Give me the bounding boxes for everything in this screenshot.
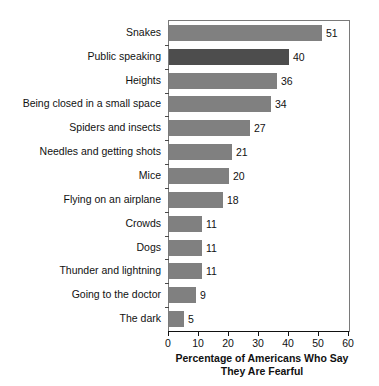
bar-value-label: 5 xyxy=(184,311,194,327)
bar-value-label: 40 xyxy=(289,49,305,65)
bar xyxy=(169,25,322,41)
bar xyxy=(169,311,184,327)
category-label: Being closed in a small space xyxy=(23,95,161,111)
category-label: Flying on an airplane xyxy=(64,191,161,207)
category-label: Dogs xyxy=(136,239,161,255)
bar xyxy=(169,168,229,184)
category-label: Crowds xyxy=(125,215,161,231)
x-axis-tick-label: 0 xyxy=(153,337,183,349)
bar xyxy=(169,144,232,160)
bar-value-label: 20 xyxy=(229,168,245,184)
category-label: The dark xyxy=(120,310,161,326)
y-axis-tick xyxy=(165,116,169,117)
category-label: Snakes xyxy=(126,24,161,40)
y-axis-tick xyxy=(165,140,169,141)
category-label: Heights xyxy=(125,72,161,88)
y-axis-tick xyxy=(165,236,169,237)
category-label: Mice xyxy=(139,167,161,183)
x-axis-tick-label: 20 xyxy=(213,337,243,349)
category-label: Going to the doctor xyxy=(72,286,161,302)
bar xyxy=(169,287,196,303)
bar xyxy=(169,263,202,279)
y-axis-tick xyxy=(165,259,169,260)
category-axis-labels: SnakesPublic speakingHeightsBeing closed… xyxy=(0,20,165,330)
bar-value-label: 51 xyxy=(322,25,338,41)
bar-value-label: 11 xyxy=(202,216,217,232)
x-axis-tick xyxy=(318,331,319,336)
bar-value-label: 34 xyxy=(271,96,287,112)
bar xyxy=(169,96,271,112)
y-axis-tick xyxy=(165,93,169,94)
bar-value-label: 21 xyxy=(232,144,248,160)
bar-value-label: 27 xyxy=(250,120,266,136)
x-axis-tick-label: 40 xyxy=(273,337,303,349)
x-axis-tick xyxy=(348,331,349,336)
y-axis-tick xyxy=(165,69,169,70)
x-axis-tick-label: 10 xyxy=(183,337,213,349)
y-axis-tick xyxy=(165,283,169,284)
bar-value-label: 11 xyxy=(202,263,217,279)
y-axis-tick xyxy=(165,188,169,189)
plot-area: 514036342721201811111195 xyxy=(168,20,350,332)
x-axis-tick-label: 60 xyxy=(333,337,363,349)
x-axis-tick xyxy=(198,331,199,336)
bar xyxy=(169,49,289,65)
category-label: Thunder and lightning xyxy=(59,262,161,278)
x-axis-tick xyxy=(228,331,229,336)
bar xyxy=(169,120,250,136)
bar-value-label: 18 xyxy=(223,192,239,208)
y-axis-tick xyxy=(165,307,169,308)
x-axis-tick xyxy=(288,331,289,336)
x-axis-tick xyxy=(168,331,169,336)
bar-value-label: 11 xyxy=(202,240,217,256)
y-axis-tick xyxy=(165,45,169,46)
x-axis-title: Percentage of Americans Who Say They Are… xyxy=(150,352,374,378)
x-axis-tick xyxy=(258,331,259,336)
bar xyxy=(169,216,202,232)
x-axis-title-line-2: They Are Fearful xyxy=(150,365,374,378)
bar xyxy=(169,240,202,256)
category-label: Spiders and insects xyxy=(69,119,161,135)
bar-value-label: 9 xyxy=(196,287,206,303)
category-label: Needles and getting shots xyxy=(40,143,161,159)
x-axis-tick-label: 50 xyxy=(303,337,333,349)
x-axis-tick-label: 30 xyxy=(243,337,273,349)
bar-chart-figure: SnakesPublic speakingHeightsBeing closed… xyxy=(0,0,379,386)
bar xyxy=(169,73,277,89)
bar-value-label: 36 xyxy=(277,73,293,89)
y-axis-tick xyxy=(165,164,169,165)
category-label: Public speaking xyxy=(87,48,161,64)
x-axis-title-line-1: Percentage of Americans Who Say xyxy=(150,352,374,365)
bar xyxy=(169,192,223,208)
y-axis-tick xyxy=(165,212,169,213)
